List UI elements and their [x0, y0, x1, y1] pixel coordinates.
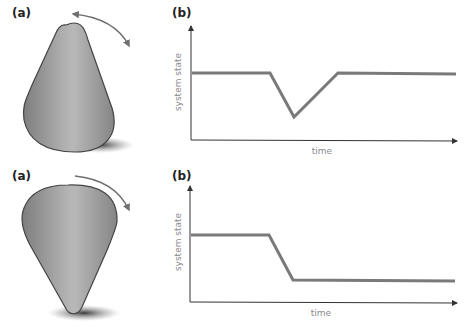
system-state-line	[192, 73, 456, 117]
x-axis-label: time	[312, 146, 333, 156]
cone-body	[23, 23, 114, 152]
x-axis	[191, 140, 457, 141]
bottom-panel-b-label: (b)	[172, 169, 192, 183]
inverted-cone-shape	[22, 185, 120, 321]
x-axis-label: time	[311, 308, 332, 318]
x-axis	[190, 302, 457, 303]
top-chart: system state time	[173, 26, 457, 156]
top-panel-b-label: (b)	[172, 6, 192, 20]
bottom-chart: system state time	[173, 186, 457, 318]
system-state-line	[191, 235, 455, 281]
y-axis-label: system state	[173, 52, 183, 111]
y-axis-label: system state	[173, 212, 183, 271]
cone-body	[22, 185, 117, 314]
top-panel-a-label: (a)	[12, 6, 31, 20]
bottom-panel-a-label: (a)	[12, 169, 31, 183]
figure: system state time system state time	[0, 0, 469, 330]
cone-shadow	[48, 305, 120, 321]
upright-cone-shape	[23, 23, 134, 153]
